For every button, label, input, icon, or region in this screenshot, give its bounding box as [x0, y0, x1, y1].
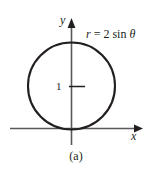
- y-axis-arrow-icon: [68, 18, 76, 28]
- x-axis-label: x: [131, 130, 136, 142]
- polar-circle-figure: y x 1 r = 2 sin θ (a): [0, 0, 152, 174]
- y-axis-label: y: [60, 14, 65, 26]
- equation-theta: θ: [126, 27, 135, 41]
- y-axis-tick-label: 1: [56, 81, 62, 92]
- equation-equals: = 2: [91, 27, 113, 41]
- equation-sine-function: sin: [112, 27, 126, 41]
- figure-caption: (a): [0, 150, 152, 162]
- curve-equation-label: r = 2 sin θ: [86, 28, 135, 40]
